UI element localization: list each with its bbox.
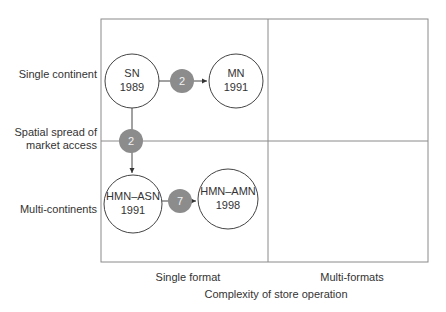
node-hmn-asn: HMN–ASN 1991 [104, 175, 162, 233]
node-sn: SN 1989 [105, 54, 159, 108]
badge-count: 2 [128, 135, 134, 147]
matrix-diagram: SN 1989 MN 1991 HMN–ASN 1991 HMN–AMN 199… [0, 0, 446, 312]
node-hmn-asn-name: HMN–ASN [106, 190, 160, 202]
y-axis-title-line1: Spatial spread of [14, 126, 97, 139]
transition-badge-hmn-asn-hmn-amn: 7 [168, 189, 192, 213]
node-mn: MN 1991 [209, 54, 263, 108]
transition-badge-sn-mn: 2 [170, 69, 194, 93]
row-label-single-continent: Single continent [19, 68, 97, 81]
node-mn-name: MN [227, 67, 244, 79]
transition-badge-sn-hmn-asn: 2 [119, 129, 143, 153]
node-mn-year: 1991 [224, 81, 248, 93]
column-label-multi-formats: Multi-formats [320, 271, 384, 284]
x-axis-title: Complexity of store operation [204, 288, 347, 301]
node-sn-name: SN [124, 67, 139, 79]
node-hmn-amn-year: 1998 [216, 199, 240, 211]
row-label-multi-continents: Multi-continents [20, 203, 97, 216]
node-hmn-amn: HMN–AMN 1998 [198, 169, 258, 229]
column-label-single-format: Single format [156, 271, 221, 284]
node-hmn-amn-name: HMN–AMN [200, 185, 256, 197]
node-sn-year: 1989 [120, 81, 144, 93]
badge-count: 7 [177, 195, 183, 207]
badge-count: 2 [179, 75, 185, 87]
node-hmn-asn-year: 1991 [121, 204, 145, 216]
y-axis-title-line2: market access [26, 139, 97, 152]
